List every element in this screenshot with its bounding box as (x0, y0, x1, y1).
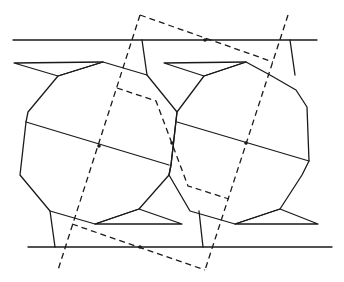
top-left-connector (142, 40, 147, 75)
right-center-dot (244, 141, 248, 145)
right-polygon (169, 62, 309, 224)
diagram-canvas (0, 0, 344, 282)
bottom-right-connector (199, 211, 203, 247)
dashed-top-edge (140, 15, 273, 62)
top-right-connector (290, 40, 295, 75)
polygons (20, 62, 309, 224)
triangles (14, 62, 318, 224)
top-left-spike (14, 62, 103, 76)
middle-dot (170, 141, 174, 145)
left-diagonal (26, 122, 169, 165)
bottom-left-connector (50, 211, 55, 247)
dashed-left-edge (58, 15, 140, 270)
top-dot (203, 38, 207, 42)
top-right-spike (164, 62, 246, 76)
points (97, 38, 248, 249)
diagonals (26, 122, 309, 165)
bottom-left-spike (95, 209, 182, 224)
bottom-right-spike (235, 209, 318, 224)
diagram-svg (0, 0, 344, 282)
bottom-dot (138, 245, 142, 249)
right-diagonal (177, 122, 309, 161)
left-center-dot (97, 144, 101, 148)
